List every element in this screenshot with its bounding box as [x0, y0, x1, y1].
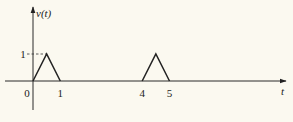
signal-pulse-2	[142, 54, 169, 81]
signal-pulse-1	[33, 54, 60, 81]
x-tick-label: 5	[167, 87, 173, 99]
x-axis-label: t	[281, 85, 285, 97]
y-axis-label: v(t)	[36, 7, 52, 20]
x-tick-label: 0	[24, 87, 30, 99]
signal-plot: 01451 t v(t)	[0, 0, 293, 122]
x-tick-label: 4	[139, 87, 145, 99]
y-tick-label: 1	[20, 48, 26, 60]
x-tick-label: 1	[58, 87, 64, 99]
